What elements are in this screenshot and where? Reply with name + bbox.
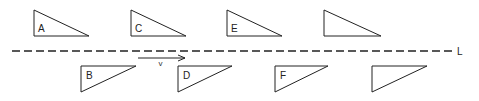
- triangle-label: D: [183, 70, 190, 81]
- triangle-label: B: [86, 70, 93, 81]
- triangle-c: C: [131, 10, 186, 36]
- triangle-a: A: [34, 10, 89, 36]
- triangles-below-line: BDF: [81, 66, 427, 92]
- triangle-b: B: [81, 66, 136, 92]
- triangle-label: A: [38, 23, 45, 34]
- triangle-e: E: [227, 10, 282, 36]
- triangle-label: F: [280, 70, 286, 81]
- triangle-unlabeled: [324, 10, 381, 36]
- triangles-above-line: ACE: [34, 10, 381, 36]
- triangle-f: F: [275, 66, 328, 92]
- triangle-label: E: [231, 23, 238, 34]
- triangle-shape: [372, 66, 427, 92]
- triangle-unlabeled: [372, 66, 427, 92]
- velocity-label: v: [159, 59, 163, 68]
- diagram-canvas: L v ACE BDF: [0, 0, 479, 101]
- triangle-shape: [324, 10, 381, 36]
- triangle-d: D: [178, 66, 232, 92]
- line-label: L: [457, 46, 463, 57]
- triangle-label: C: [135, 23, 142, 34]
